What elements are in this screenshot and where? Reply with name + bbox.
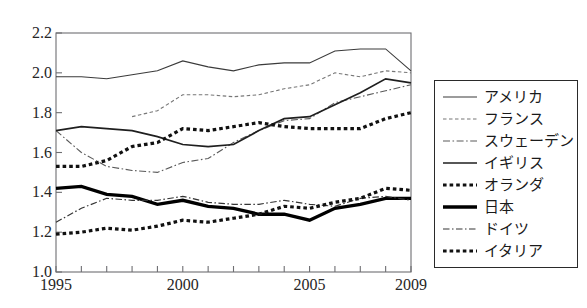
chart-legend: アメリカフランススウェーデンイギリスオランダ日本ドイツイタリア — [434, 80, 578, 268]
series-line-1 — [132, 71, 411, 117]
y-tick-label: 1.6 — [16, 145, 52, 161]
x-tick-label: 2009 — [381, 277, 441, 293]
legend-item-label: イギリス — [484, 156, 544, 171]
x-tick-label: 2000 — [153, 277, 213, 293]
legend-item-label: スウェーデン — [484, 134, 574, 149]
y-tick-label: 2.2 — [16, 25, 52, 41]
legend-line-swatch-icon — [442, 223, 478, 235]
y-axis-labels: 2.22.01.81.61.41.21.0 — [8, 0, 52, 308]
y-tick-label: 1.4 — [16, 184, 52, 200]
legend-item-label: ドイツ — [484, 222, 529, 237]
y-tick-label: 2.0 — [16, 65, 52, 81]
legend-line-swatch-icon — [442, 91, 478, 103]
legend-item-3[interactable]: イギリス — [435, 152, 577, 174]
legend-line-swatch-icon — [442, 135, 478, 147]
legend-item-label: 日本 — [484, 200, 514, 215]
legend-item-label: アメリカ — [484, 90, 543, 105]
series-line-5 — [56, 186, 411, 220]
legend-item-5[interactable]: 日本 — [435, 196, 577, 218]
x-tick-label: 2005 — [280, 277, 340, 293]
legend-item-label: イタリア — [484, 244, 543, 259]
x-axis-ticks — [56, 266, 411, 272]
x-axis-labels: 1995200020052009 — [0, 277, 430, 301]
series-line-4 — [56, 113, 411, 167]
legend-line-swatch-icon — [442, 157, 478, 169]
axis-frame — [56, 33, 411, 272]
y-tick-label: 1.2 — [16, 224, 52, 240]
legend-line-swatch-icon — [442, 245, 478, 257]
legend-line-swatch-icon — [442, 113, 478, 125]
series-lines — [56, 49, 411, 234]
legend-item-7[interactable]: イタリア — [435, 240, 577, 262]
series-line-3 — [56, 79, 411, 147]
legend-line-swatch-icon — [442, 201, 478, 213]
legend-line-swatch-icon — [442, 179, 478, 191]
legend-item-label: オランダ — [484, 178, 544, 193]
legend-item-6[interactable]: ドイツ — [435, 218, 577, 240]
y-axis-ticks — [56, 33, 62, 272]
y-tick-label: 1.8 — [16, 105, 52, 121]
legend-item-label: フランス — [484, 112, 544, 127]
x-tick-label: 1995 — [26, 277, 86, 293]
legend-item-4[interactable]: オランダ — [435, 174, 577, 196]
legend-item-0[interactable]: アメリカ — [435, 86, 577, 108]
line-chart: 2.22.01.81.61.41.21.0 1995200020052009 ア… — [0, 0, 587, 308]
series-line-0 — [56, 49, 411, 79]
legend-item-1[interactable]: フランス — [435, 108, 577, 130]
legend-item-2[interactable]: スウェーデン — [435, 130, 577, 152]
